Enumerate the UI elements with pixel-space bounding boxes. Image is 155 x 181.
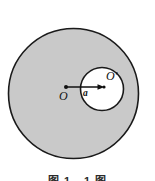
figure-caption: 图 1 - 1 图: [0, 168, 155, 181]
center-point-o-prime-marker: [102, 85, 105, 88]
figure-caption-text: 图 1 - 1 图: [48, 175, 107, 181]
figure-container: O O′ a 图 1 - 1 图: [0, 0, 155, 181]
diagram-canvas: O O′ a: [0, 0, 155, 181]
label-o: O: [59, 89, 68, 103]
label-o-prime: O′: [106, 69, 118, 83]
label-vector-a: a: [83, 88, 88, 98]
